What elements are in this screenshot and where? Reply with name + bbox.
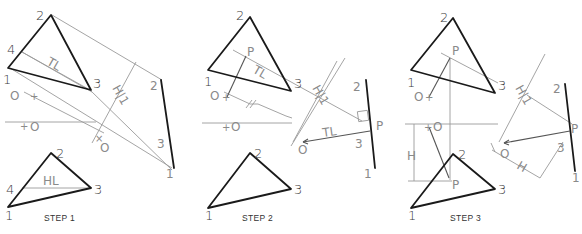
descriptive-geometry-figure: + + × 2 4 1 3 TL O O H|1 2 3 1 O 2 4 3 1… <box>0 0 582 234</box>
s2-o-front: O <box>210 89 219 103</box>
s3-edge-1: 1 <box>572 171 580 185</box>
s1-label-3: 3 <box>93 76 101 91</box>
svg-text:+: + <box>424 122 432 133</box>
svg-text:+: + <box>222 122 230 133</box>
s3-label-3: 3 <box>498 78 506 93</box>
s3-top-1: 1 <box>408 208 416 223</box>
s1-o-top: O <box>30 120 39 134</box>
s1-label-4: 4 <box>7 42 15 57</box>
s3-label-1: 1 <box>407 75 415 90</box>
step-3-projectors <box>405 53 572 181</box>
s2-label-1: 1 <box>204 74 212 89</box>
s1-edge-1: 1 <box>166 167 174 181</box>
step-3-caption: STEP 3 <box>450 213 481 223</box>
s1-label-1: 1 <box>3 72 11 87</box>
s3-fold-label: H|1 <box>512 83 534 108</box>
s2-label-2: 2 <box>236 8 244 23</box>
svg-text:+: + <box>222 92 230 103</box>
s1-top-4: 4 <box>6 182 14 197</box>
s2-tl-aux: TL <box>320 124 337 140</box>
step-2-caption: STEP 2 <box>242 213 273 223</box>
s1-edge-3: 3 <box>157 137 165 151</box>
s3-top-2: 2 <box>458 147 466 162</box>
s3-o-front: O <box>414 90 423 104</box>
s2-top-1: 1 <box>205 208 213 223</box>
step-2-top-triangle <box>208 153 291 208</box>
s1-top-3: 3 <box>94 182 102 197</box>
step-1-panel: + + × 2 4 1 3 TL O O H|1 2 3 1 O 2 4 3 1… <box>3 8 174 223</box>
s3-h-aux: H <box>515 158 530 175</box>
step-1-caption: STEP 1 <box>44 213 75 223</box>
s2-p-front: P <box>247 45 254 59</box>
step-2-panel: 2 1 3 P TL O + + O H|1 2 3 1 P TL O 2 3 … <box>202 8 383 223</box>
s2-top-3: 3 <box>294 182 302 197</box>
s1-o-aux: O <box>100 141 109 155</box>
s3-top-3: 3 <box>498 182 506 197</box>
step-3-panel: 2 1 3 P O + + O H P H|1 2 3 1 P O H 2 3 … <box>405 10 580 223</box>
step-2-edge-view <box>366 80 375 168</box>
s2-fold-label: H|1 <box>309 83 331 108</box>
s3-label-2: 2 <box>440 10 448 25</box>
s2-o-aux: O <box>298 143 307 157</box>
s3-edge-3: 3 <box>557 141 565 155</box>
step-1-edge-view <box>161 80 174 168</box>
svg-text:+: + <box>30 91 38 102</box>
s2-edge-3: 3 <box>355 137 363 151</box>
s1-top-1: 1 <box>5 208 13 223</box>
s1-o-front: O <box>10 89 19 103</box>
s3-p-front: P <box>452 44 459 58</box>
svg-text:+: + <box>20 121 28 132</box>
s3-p-top: P <box>452 178 459 192</box>
s2-edge-2: 2 <box>353 80 361 94</box>
s1-tl-label: TL <box>44 54 64 74</box>
s1-top-2: 2 <box>56 146 64 161</box>
step-1-front-triangle <box>8 15 91 90</box>
s1-hl-label: HL <box>43 174 59 188</box>
s1-label-2: 2 <box>36 8 44 23</box>
s2-label-3: 3 <box>294 76 302 91</box>
s3-h-top: H <box>407 149 416 163</box>
s1-fold-label: H|1 <box>109 83 131 108</box>
s1-edge-2: 2 <box>150 79 158 93</box>
s3-o-aux: O <box>500 147 509 161</box>
s3-edge-2: 2 <box>553 82 561 96</box>
s2-edge-1: 1 <box>364 167 372 181</box>
s2-o-top: O <box>231 120 240 134</box>
s2-p-aux: P <box>376 119 383 133</box>
s2-top-2: 2 <box>254 146 262 161</box>
svg-text:+: + <box>425 92 433 103</box>
s3-p-aux: P <box>571 122 578 136</box>
s2-tl-front: TL <box>250 62 270 82</box>
s3-o-top: O <box>433 120 442 134</box>
